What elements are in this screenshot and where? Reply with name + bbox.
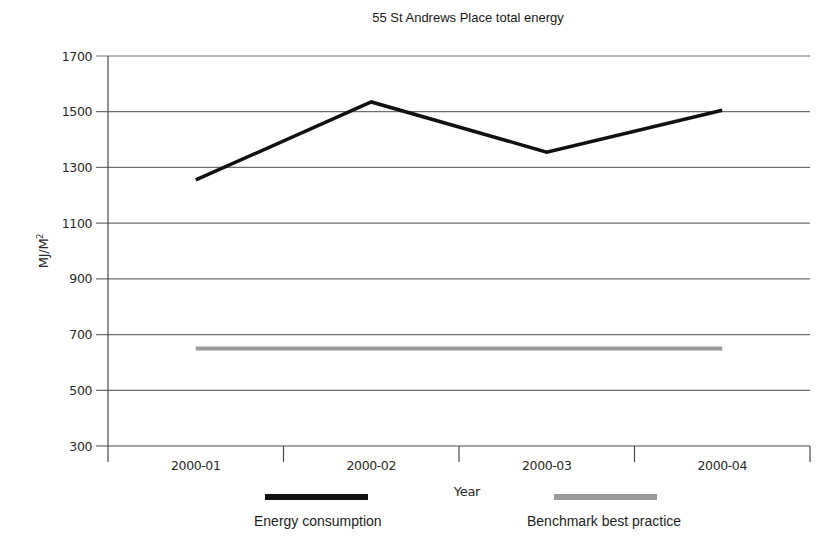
legend-swatch-benchmark — [554, 494, 657, 500]
chart-title: 55 St Andrews Place total energy — [372, 10, 564, 25]
y-axis-label-text: MJ/M — [36, 239, 51, 268]
y-tick-label: 1500 — [62, 104, 93, 119]
y-axis-ticks: 3005007009001100130015001700 — [62, 49, 93, 454]
y-axis-label: MJ/M2 — [36, 234, 51, 268]
chart: 55 St Andrews Place total energy MJ/M2 3… — [0, 0, 840, 554]
x-tick-label: 2000-02 — [347, 458, 396, 473]
legend-item-benchmark: Benchmark best practice — [527, 494, 681, 529]
y-tick-label: 1100 — [62, 216, 93, 231]
y-tick-label: 300 — [69, 439, 92, 454]
y-tick-label: 900 — [69, 271, 92, 286]
legend-swatch-energy — [265, 494, 368, 500]
x-tick-label: 2000-03 — [522, 458, 571, 473]
y-tick-label: 1300 — [62, 160, 93, 175]
legend-label-energy: Energy consumption — [254, 513, 382, 529]
x-tick-label: 2000-04 — [698, 458, 748, 473]
gridlines — [96, 56, 810, 390]
x-axis-ticks: 2000-012000-022000-032000-04 — [171, 446, 747, 473]
x-tick-label: 2000-01 — [171, 458, 220, 473]
x-axis-label: Year — [453, 484, 481, 499]
y-tick-label: 700 — [69, 327, 92, 342]
energy-consumption-line — [196, 102, 723, 180]
y-axis-label-superscript: 2 — [36, 234, 45, 239]
legend-label-benchmark: Benchmark best practice — [527, 513, 681, 529]
y-tick-label: 500 — [69, 383, 92, 398]
svg-text:MJ/M2: MJ/M2 — [36, 234, 51, 268]
y-tick-label: 1700 — [62, 49, 93, 64]
legend-item-energy: Energy consumption — [254, 494, 382, 529]
legend: Energy consumption Benchmark best practi… — [254, 494, 681, 529]
